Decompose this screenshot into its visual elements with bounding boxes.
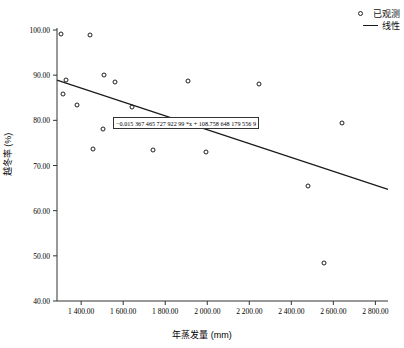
legend-item-observed[interactable]: 已观测: [304, 8, 400, 20]
data-point[interactable]: [256, 81, 261, 86]
legend-item-linear[interactable]: 线性: [304, 20, 400, 32]
data-point[interactable]: [87, 33, 92, 38]
data-point[interactable]: [306, 184, 311, 189]
chart-figure: 40.0050.0060.0070.0080.0090.00100.00 1 4…: [0, 0, 404, 348]
x-tick-label: 2 600.00: [320, 307, 346, 316]
data-point[interactable]: [101, 126, 106, 131]
data-point[interactable]: [186, 78, 191, 83]
x-tick-label: 2 400.00: [278, 307, 304, 316]
data-point[interactable]: [59, 32, 64, 37]
y-tick-label: 100.00: [8, 26, 50, 35]
data-point[interactable]: [339, 121, 344, 126]
legend-label-linear: 线性: [382, 20, 400, 32]
x-tick-label: 1 800.00: [152, 307, 178, 316]
legend-label-observed: 已观测: [373, 8, 400, 20]
data-point[interactable]: [321, 260, 326, 265]
data-point[interactable]: [204, 149, 209, 154]
y-tick-label: 90.00: [8, 71, 50, 80]
y-tick-label: 80.00: [8, 116, 50, 125]
x-tick-label: 2 000.00: [194, 307, 220, 316]
chart-legend: 已观测 线性: [304, 8, 400, 32]
data-point[interactable]: [90, 147, 95, 152]
data-point[interactable]: [74, 102, 79, 107]
data-points-layer: [0, 0, 404, 348]
y-tick-label: 60.00: [8, 206, 50, 215]
solid-line-icon: [363, 21, 379, 31]
regression-equation-label: −0.015 367 465 727 922 99 *x + 108.758 6…: [113, 117, 259, 129]
x-tick-label: 1 600.00: [110, 307, 136, 316]
y-tick-label: 70.00: [8, 161, 50, 170]
x-tick-label: 1 400.00: [68, 307, 94, 316]
y-tick-label: 50.00: [8, 251, 50, 260]
x-tick-label: 2 200.00: [236, 307, 262, 316]
data-point[interactable]: [129, 105, 134, 110]
data-point[interactable]: [150, 147, 155, 152]
data-point[interactable]: [64, 78, 69, 83]
y-tick-label: 40.00: [8, 297, 50, 306]
data-point[interactable]: [112, 79, 117, 84]
x-axis-title: 年蒸发量 (mm): [0, 328, 404, 341]
data-point[interactable]: [61, 91, 66, 96]
y-axis-title: 越冬率 (%): [1, 115, 14, 195]
open-circle-marker-icon: [354, 9, 370, 19]
x-tick-label: 2 800.00: [362, 307, 388, 316]
data-point[interactable]: [102, 73, 107, 78]
